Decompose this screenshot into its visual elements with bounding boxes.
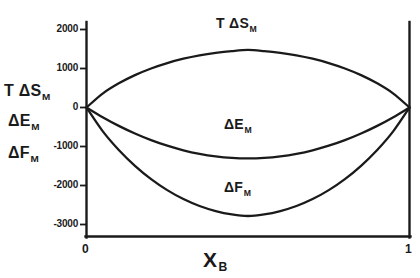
- y-tick-label-neg2000: -2000: [40, 180, 78, 190]
- y-tick-label-neg1000: -1000: [40, 141, 78, 151]
- x-tick-label-0: 0: [82, 243, 88, 255]
- y-tick-label-0: 0: [44, 102, 78, 112]
- curve-annotation-energy-base: ΔE: [224, 116, 244, 132]
- side-label-energy-subscript: M: [31, 121, 40, 132]
- curve-annotation-energy: ΔEM: [224, 117, 252, 131]
- curve-annotation-entropy: T ΔSM: [216, 16, 257, 30]
- y-tick-label-1000: 1000: [44, 63, 78, 73]
- chart-figure: 2000 1000 0 -1000 -2000 -3000 0 1 XB T Δ…: [0, 0, 420, 278]
- x-axis-title-subscript: B: [219, 260, 228, 274]
- side-label-entropy: T ΔSM: [4, 83, 50, 99]
- side-label-energy-base: ΔE: [8, 112, 31, 129]
- x-axis-title-base: X: [203, 248, 218, 271]
- curve-annotation-energy-subscript: M: [245, 125, 253, 135]
- curve-annotation-free-energy-subscript: M: [244, 188, 252, 198]
- side-label-entropy-subscript: M: [42, 91, 51, 102]
- side-label-energy: ΔEM: [8, 113, 39, 129]
- curve-annotation-entropy-base: T ΔS: [216, 15, 249, 31]
- chart-plot-area: [0, 0, 420, 278]
- y-tick-label-2000: 2000: [44, 24, 78, 34]
- curve-entropy: [87, 50, 410, 108]
- side-label-free-energy-base: ΔF: [8, 144, 30, 161]
- x-tick-label-1: 1: [405, 243, 411, 255]
- curve-annotation-entropy-subscript: M: [250, 24, 258, 34]
- side-label-free-energy: ΔFM: [8, 145, 38, 161]
- curve-annotation-free-energy: ΔFM: [224, 180, 251, 194]
- y-tick-label-neg3000: -3000: [40, 219, 78, 229]
- side-label-entropy-base: T ΔS: [4, 82, 42, 99]
- side-label-free-energy-subscript: M: [30, 153, 39, 164]
- curve-annotation-free-energy-base: ΔF: [224, 179, 243, 195]
- x-axis-title: XB: [203, 249, 227, 270]
